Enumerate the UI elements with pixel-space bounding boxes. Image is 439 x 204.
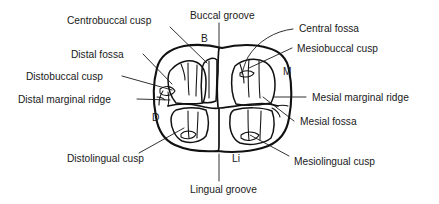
orientation-marker-lingual: Li [232,153,240,164]
orientation-marker-mesial: M [283,66,292,77]
label-mesial-fossa: Mesial fossa [300,116,357,127]
label-mesiobuccal-cusp: Mesiobuccal cusp [297,43,378,54]
label-mesial-marginal-ridge: Mesial marginal ridge [312,92,409,103]
label-distolingual-cusp: Distolingual cusp [67,153,144,164]
label-distal-fossa: Distal fossa [71,49,124,60]
label-distal-marginal-ridge: Distal marginal ridge [18,94,111,105]
label-centrobuccal-cusp: Centrobuccal cusp [67,15,152,26]
label-central-fossa: Central fossa [299,23,359,34]
tooth-outline-path [154,45,291,152]
tooth-occlusal-outline-group [154,45,291,152]
lingual-groove-path [218,108,219,151]
orientation-marker-distal: D [152,112,159,123]
diagram-canvas: Centrobuccal cusp Buccal groove Central … [0,0,439,204]
tooth-anatomy-diagram: Centrobuccal cusp Buccal groove Central … [0,0,439,204]
orientation-marker-buccal: B [201,33,208,44]
label-mesiolingual-cusp: Mesiolingual cusp [294,156,375,167]
label-buccal-groove: Buccal groove [190,10,255,21]
label-lingual-groove: Lingual groove [190,184,257,195]
label-distobuccal-cusp: Distobuccal cusp [26,71,103,82]
